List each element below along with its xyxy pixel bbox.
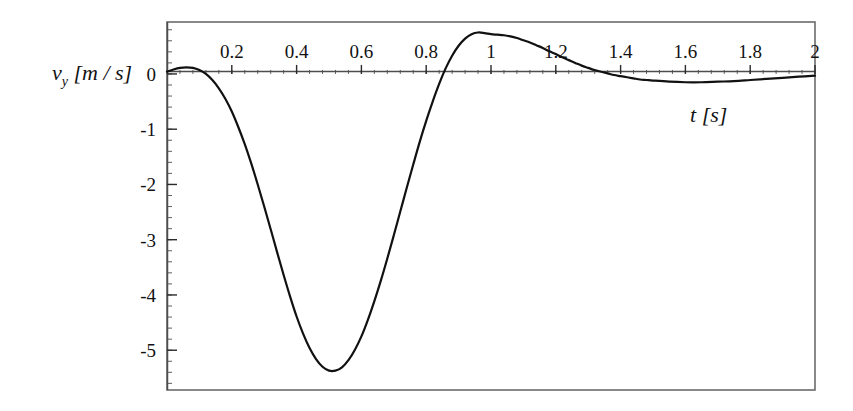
- x-tick-label: 0.6: [350, 41, 374, 62]
- x-tick-label: 2: [810, 41, 820, 62]
- y-axis-label-var: v: [52, 60, 62, 85]
- x-tick-label: 0.8: [414, 41, 438, 62]
- y-tick-label: 0: [147, 64, 157, 85]
- y-tick-label: -2: [140, 174, 156, 195]
- y-tick-label: -3: [140, 230, 156, 251]
- x-tick-label: 1.4: [609, 41, 633, 62]
- x-tick-label: 0.2: [220, 41, 244, 62]
- x-tick-label: 1: [486, 41, 496, 62]
- figure-container: 0.20.40.60.811.21.41.61.82 0-1-2-3-4-5 v…: [0, 0, 853, 411]
- y-axis-label-unit: [m / s]: [73, 60, 132, 85]
- x-tick-label: 0.4: [285, 41, 309, 62]
- x-tick-label: 1.6: [674, 41, 698, 62]
- x-tick-label: 1.8: [738, 41, 762, 62]
- x-axis-label: t [s]: [690, 102, 727, 127]
- y-tick-label: -1: [140, 119, 156, 140]
- y-tick-label: -4: [140, 285, 156, 306]
- x-axis-label-unit: [s]: [702, 102, 728, 127]
- velocity-time-plot: 0.20.40.60.811.21.41.61.82 0-1-2-3-4-5 v…: [0, 0, 853, 411]
- y-tick-label: -5: [140, 340, 156, 361]
